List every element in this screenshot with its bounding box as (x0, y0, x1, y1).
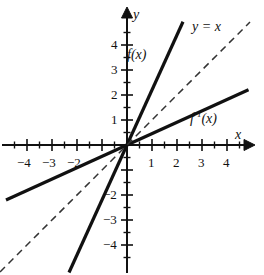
inverse-function-figure: −4−3−212344321−2−3−4 y x f(x) f-1(x) y =… (0, 0, 264, 275)
curve-label-f: f(x) (127, 48, 146, 62)
y-tick-label: −2 (103, 188, 117, 201)
graph-canvas (0, 0, 264, 275)
x-tick-label: −4 (17, 156, 31, 169)
x-tick-label: −3 (42, 156, 56, 169)
x-axis-label: x (235, 128, 241, 142)
curve-label-f-inverse: f-1(x) (190, 112, 217, 126)
x-tick-label: 4 (223, 156, 230, 169)
x-tick-label: 1 (148, 156, 155, 169)
x-tick-label: 3 (198, 156, 205, 169)
y-tick-label: −4 (103, 238, 117, 251)
curve-label-f-inverse-arg: (x) (201, 111, 217, 126)
y-axis-arrow-icon (122, 7, 133, 18)
y-tick-label: −3 (103, 213, 117, 226)
y-axis-label: y (133, 8, 139, 22)
x-tick-label: −2 (67, 156, 81, 169)
y-tick-label: 3 (111, 63, 118, 76)
x-axis-arrow-icon (244, 140, 255, 151)
y-tick-label: 2 (111, 88, 118, 101)
y-tick-label: 4 (111, 38, 118, 51)
curves-group (0, 22, 250, 273)
x-tick-label: 2 (173, 156, 180, 169)
y-tick-label: 1 (111, 113, 118, 126)
curve-label-identity: y = x (192, 20, 221, 34)
